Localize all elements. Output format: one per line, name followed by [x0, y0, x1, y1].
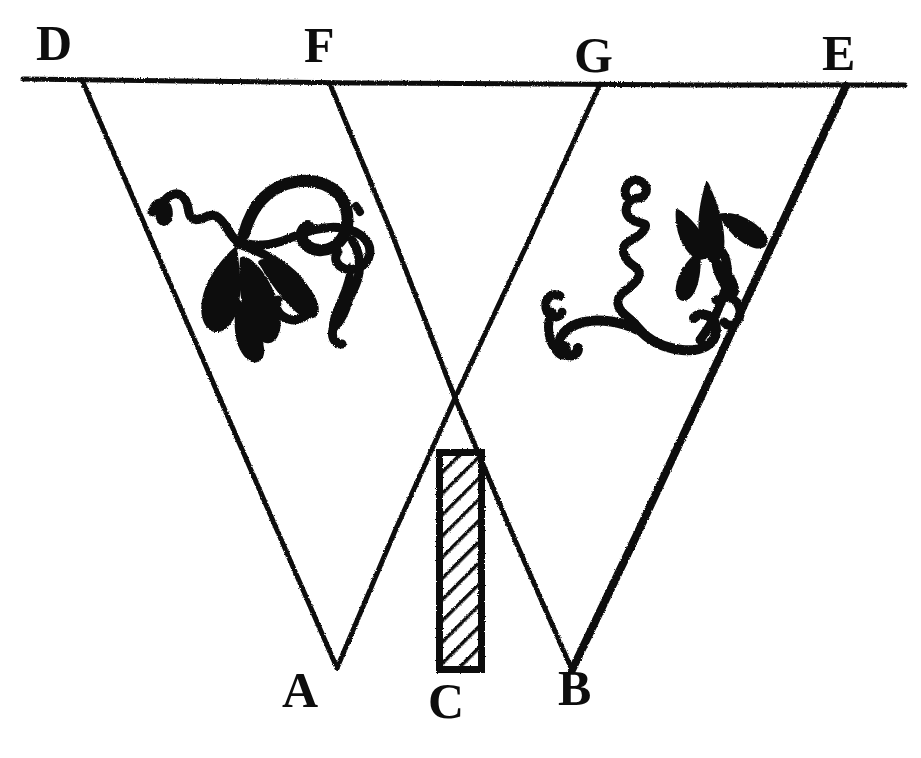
- vertex-label-C: C: [428, 676, 464, 726]
- horizontal-line-DE: [23, 79, 905, 85]
- ray-E-to-B: [572, 86, 846, 670]
- vertex-label-B: B: [558, 663, 591, 713]
- vertex-label-D: D: [36, 18, 72, 68]
- ray-D-to-A: [82, 80, 337, 668]
- vertex-label-F: F: [304, 20, 335, 70]
- hatched-rectangle-C: [436, 449, 485, 673]
- diagram-canvas: [0, 0, 921, 758]
- figure-root: D F G E A C B: [0, 0, 921, 758]
- vertex-label-A: A: [282, 665, 318, 715]
- vertex-label-E: E: [822, 28, 855, 78]
- left-floral-ornament: [152, 181, 370, 363]
- vertex-label-G: G: [574, 30, 613, 80]
